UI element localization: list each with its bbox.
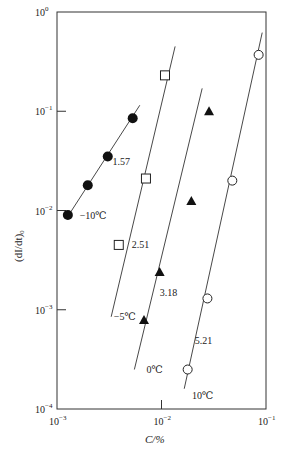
x-tick-label: 10−3	[49, 414, 67, 427]
chart-annotation: 3.18	[160, 287, 178, 298]
data-point-filled-triangle	[155, 267, 165, 276]
data-point-filled-triangle	[204, 106, 214, 115]
y-tick-label: 100	[35, 5, 49, 18]
data-point-open-circle	[203, 294, 212, 303]
data-point-open-square	[141, 174, 150, 183]
data-point-filled-circle	[128, 113, 138, 123]
x-axis-title: C/%	[145, 433, 165, 445]
chart-annotation: −5℃	[114, 311, 136, 322]
data-point-filled-circle	[83, 180, 93, 190]
data-point-open-square	[160, 71, 169, 80]
data-point-filled-triangle	[186, 196, 196, 205]
data-point-filled-circle	[63, 210, 73, 220]
y-tick-label: 10−2	[35, 204, 53, 217]
data-point-filled-circle	[103, 152, 113, 162]
data-point-open-circle	[228, 176, 237, 185]
data-point-open-square	[114, 240, 123, 249]
x-tick-label: 10−2	[154, 414, 172, 427]
data-point-open-circle	[183, 365, 192, 374]
chart-annotation: −10℃	[80, 210, 107, 221]
y-tick-label: 10−3	[35, 303, 53, 316]
chart-annotation: 5.21	[195, 335, 213, 346]
x-tick-label: 10−1	[258, 414, 276, 427]
y-tick-label: 10−1	[35, 104, 53, 117]
chart-annotation: 10℃	[192, 390, 213, 401]
annotations: 1.57−10℃2.51−5℃3.180℃5.2110℃	[80, 156, 214, 401]
chart-annotation: 1.57	[113, 156, 131, 167]
fit-line	[134, 88, 202, 369]
chart-annotation: 2.51	[132, 239, 150, 250]
y-tick-label: 10−4	[35, 402, 53, 415]
data-point-open-circle	[254, 50, 263, 59]
log-log-scatter-chart: 10010−110−210−310−410−310−210−1 1.57−10℃…	[0, 0, 285, 457]
y-axis-title: (dI/dt)₀	[12, 230, 25, 262]
chart-annotation: 0℃	[147, 364, 163, 375]
